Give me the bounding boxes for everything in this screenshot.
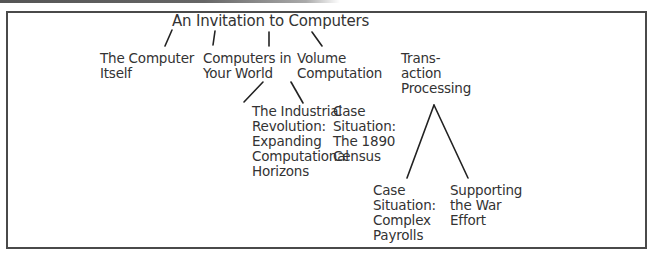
connector-transaction-to-war-effort — [434, 105, 468, 178]
connector-root-to-volume-computation-a — [213, 31, 215, 45]
node-complex-payrolls: Case Situation: Complex Payrolls — [373, 183, 436, 243]
node-census-1890: Case Situation: The 1890 Census — [333, 104, 396, 164]
node-volume-computation: Volume Computation — [297, 51, 382, 81]
root-node: An Invitation to Computers — [172, 14, 369, 29]
connector-root-to-transaction-processing — [312, 32, 322, 46]
connector-root-to-computers-in-world — [165, 30, 172, 46]
node-transaction-processing: Trans- action Processing — [401, 51, 471, 96]
connector-volume-to-industrial — [244, 82, 263, 102]
node-computer-itself: The Computer Itself — [100, 51, 194, 81]
node-war-effort: Supporting the War Effort — [450, 183, 522, 228]
connector-volume-to-census — [291, 82, 303, 103]
connector-transaction-to-payrolls — [407, 105, 434, 178]
node-computers-in-your-world: Computers in Your World — [203, 51, 291, 81]
